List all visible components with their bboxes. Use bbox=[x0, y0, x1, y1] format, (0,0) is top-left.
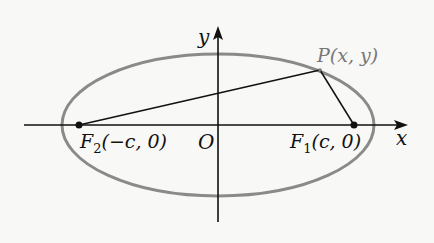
focus-F1-point bbox=[351, 122, 358, 129]
focus-F2-label: F2(−c, 0) bbox=[79, 130, 167, 156]
x-axis-label: x bbox=[396, 126, 407, 150]
ellipse-diagram: y x O P(x, y) F2(−c, 0) F1(c, 0) bbox=[0, 0, 434, 243]
focus-F1-subscript: 1 bbox=[303, 141, 311, 156]
focus-F2-coords: (−c, 0) bbox=[101, 130, 167, 152]
segment-F2-P bbox=[79, 70, 320, 125]
focus-F2-subscript: 2 bbox=[93, 141, 101, 156]
y-axis-label: y bbox=[197, 25, 210, 49]
focus-F2-point bbox=[76, 122, 83, 129]
focus-F1-name: F bbox=[289, 130, 304, 152]
focus-F1-coords: (c, 0) bbox=[311, 130, 361, 152]
origin-label: O bbox=[198, 130, 214, 154]
point-P-label: P(x, y) bbox=[316, 44, 378, 66]
focus-F2-name: F bbox=[79, 130, 94, 152]
point-P-coords: (x, y) bbox=[330, 44, 378, 66]
point-P bbox=[318, 68, 322, 72]
focus-F1-label: F1(c, 0) bbox=[289, 130, 361, 156]
diagram-svg: y x O P(x, y) F2(−c, 0) F1(c, 0) bbox=[0, 0, 434, 243]
point-P-name: P bbox=[316, 44, 331, 66]
